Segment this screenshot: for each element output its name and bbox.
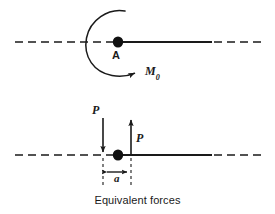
top-diagram-group (15, 11, 265, 77)
moment-label: M0 (145, 65, 160, 81)
figure-graphics (0, 0, 275, 214)
equivalent-forces-figure: A M0 P P a Equivalent forces (0, 0, 275, 214)
moment-arc (86, 11, 135, 77)
point-a-label: A (112, 50, 120, 61)
force-label-up: P (136, 132, 143, 144)
point-marker-bottom (113, 149, 123, 160)
figure-caption: Equivalent forces (0, 194, 275, 206)
bottom-diagram-group (15, 118, 265, 186)
point-a-marker (113, 36, 123, 47)
moment-label-subscript: 0 (156, 73, 160, 82)
force-label-down: P (92, 104, 99, 116)
moment-label-base: M (145, 64, 156, 78)
dimension-label-a: a (114, 173, 120, 184)
